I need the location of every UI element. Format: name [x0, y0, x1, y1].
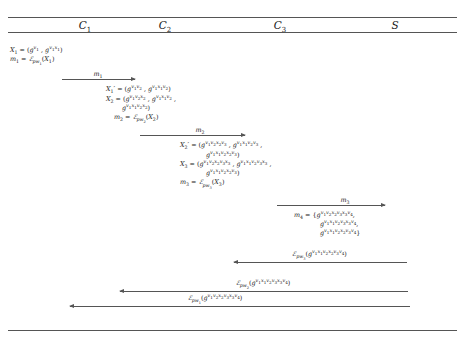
formula-x1: X1 = (gv1 , gv1x1): [10, 46, 62, 55]
column-header-c1: C1: [40, 19, 130, 31]
column-header-c2: C2: [120, 19, 210, 31]
protocol-diagram: C1 C2 C3 S X1 = (gv1 , gv1x1) m1 = ℰpw1(…: [0, 0, 465, 348]
party-label-c3: C: [274, 19, 282, 31]
table-rule-top: [8, 17, 457, 18]
formula-x3-cont: gv1x1v2x2v3): [180, 169, 271, 178]
formula-m3: m3 = ℰpw3(X3): [180, 178, 271, 187]
party-label-s: S: [391, 19, 398, 31]
table-rule-middle: [8, 32, 457, 33]
message-arrow-m2: [140, 135, 245, 136]
party-index-c1: 1: [87, 26, 91, 34]
column-header-c3: C3: [235, 19, 325, 31]
party-label-c1: C: [79, 19, 87, 31]
message-label-m1: m1: [78, 70, 118, 78]
message-arrow-r3: [234, 262, 407, 263]
message-arrow-r1: [70, 306, 410, 307]
formula-x2-cont: gv1x1v2x2): [106, 104, 176, 113]
message-arrow-r2: [120, 291, 408, 292]
computation-block-c2: X1′ = (gv1v2 , gv1x1v2) X2 = (gv1v2x2 , …: [106, 85, 176, 122]
party-index-c2: 2: [167, 26, 171, 34]
party-index-c3: 3: [282, 26, 286, 34]
message-label-m2: m2: [180, 126, 220, 134]
formula-m2: m2 = ℰpw2(X2): [106, 113, 176, 122]
column-header-s: S: [350, 19, 440, 31]
formula-m1: m1 = ℰpw1(X1): [10, 55, 62, 64]
party-label-c2: C: [159, 19, 167, 31]
message-arrow-m3: [277, 205, 385, 206]
computation-block-c1: X1 = (gv1 , gv1x1) m1 = ℰpw1(X1): [10, 46, 62, 64]
formula-m4-cont2: gv1x1v2x2v3v4}: [294, 229, 360, 238]
table-rule-bottom: [8, 330, 457, 331]
message-label-r2: ℰpw2(gv1x1v2v3x3v4): [118, 279, 408, 288]
computation-block-c3: X2′ = (gv1v2x2v3 , gv1x1v2v3 , gv1x1v2x2…: [180, 141, 271, 187]
message-label-m3: m3: [325, 196, 365, 204]
message-arrow-m1: [62, 79, 135, 80]
computation-block-s: m4 = {gv1v2x2v3x3v4, gv1x1v2v3x3v4, gv1x…: [294, 211, 360, 238]
message-label-r3: ℰpw3(gv1x1v2x2v3v4): [232, 250, 407, 259]
message-label-r1: ℰpw1(gv1v2x2v3x3v4): [70, 294, 360, 303]
